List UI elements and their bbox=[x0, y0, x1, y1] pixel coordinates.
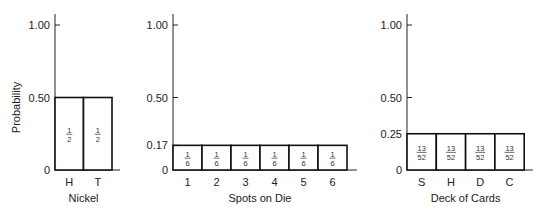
y-tick-label: 0.50 bbox=[147, 92, 168, 104]
x-tick-label: D bbox=[476, 176, 484, 188]
fraction-denominator: 52 bbox=[505, 153, 513, 162]
fraction-denominator: 6 bbox=[330, 159, 334, 168]
x-tick-label: 1 bbox=[184, 176, 190, 188]
fraction-numerator: 1 bbox=[214, 150, 218, 159]
fraction-numerator: 1 bbox=[185, 150, 189, 159]
y-axis-label: Probability bbox=[10, 81, 22, 133]
probability-charts: 00.501.0012H12TNickelProbability00.170.5… bbox=[0, 0, 545, 213]
fraction-denominator: 6 bbox=[301, 159, 305, 168]
x-tick-label: 2 bbox=[213, 176, 219, 188]
y-tick-label: 0.50 bbox=[29, 92, 50, 104]
x-axis-label: Deck of Cards bbox=[431, 192, 501, 204]
y-tick-label: 1.00 bbox=[147, 19, 168, 31]
y-tick-label: 0.17 bbox=[147, 139, 168, 151]
y-tick-label: 1.00 bbox=[381, 19, 402, 31]
x-tick-label: 4 bbox=[271, 176, 277, 188]
x-tick-label: T bbox=[94, 176, 101, 188]
fraction-denominator: 6 bbox=[272, 159, 276, 168]
x-axis-label: Nickel bbox=[69, 192, 99, 204]
x-tick-label: S bbox=[418, 176, 425, 188]
fraction-numerator: 13 bbox=[417, 144, 425, 153]
fraction-numerator: 1 bbox=[330, 150, 334, 159]
y-tick-label: 0 bbox=[162, 164, 168, 176]
fraction-numerator: 1 bbox=[272, 150, 276, 159]
fraction-denominator: 52 bbox=[476, 153, 484, 162]
x-tick-label: H bbox=[447, 176, 455, 188]
fraction-denominator: 2 bbox=[67, 135, 71, 144]
x-axis-label: Spots on Die bbox=[229, 192, 292, 204]
y-tick-label: 0.50 bbox=[381, 92, 402, 104]
fraction-denominator: 52 bbox=[447, 153, 455, 162]
x-tick-label: H bbox=[65, 176, 73, 188]
x-tick-label: C bbox=[506, 176, 514, 188]
y-tick-label: 0 bbox=[396, 164, 402, 176]
fraction-denominator: 6 bbox=[243, 159, 247, 168]
y-tick-label: 1.00 bbox=[29, 19, 50, 31]
fraction-denominator: 52 bbox=[417, 153, 425, 162]
fraction-numerator: 1 bbox=[301, 150, 305, 159]
fraction-denominator: 6 bbox=[185, 159, 189, 168]
fraction-numerator: 1 bbox=[243, 150, 247, 159]
fraction-numerator: 1 bbox=[96, 126, 100, 135]
fraction-numerator: 1 bbox=[67, 126, 71, 135]
fraction-numerator: 13 bbox=[505, 144, 513, 153]
fraction-denominator: 2 bbox=[96, 135, 100, 144]
fraction-numerator: 13 bbox=[447, 144, 455, 153]
x-tick-label: 5 bbox=[300, 176, 306, 188]
y-tick-label: 0.25 bbox=[381, 128, 402, 140]
x-tick-label: 6 bbox=[329, 176, 335, 188]
y-tick-label: 0 bbox=[44, 164, 50, 176]
x-tick-label: 3 bbox=[242, 176, 248, 188]
fraction-numerator: 13 bbox=[476, 144, 484, 153]
fraction-denominator: 6 bbox=[214, 159, 218, 168]
